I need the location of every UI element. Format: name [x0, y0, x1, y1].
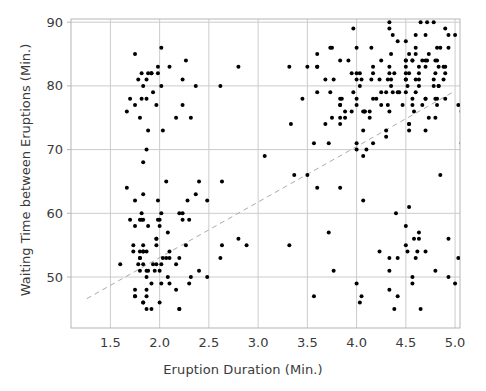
- data-point: [443, 27, 447, 31]
- x-tick-label: 4.5: [395, 335, 416, 350]
- data-point: [361, 199, 365, 203]
- data-point: [338, 97, 342, 101]
- data-point: [387, 288, 391, 292]
- data-point: [387, 20, 391, 24]
- data-point: [438, 173, 442, 177]
- data-point: [396, 39, 400, 43]
- y-tick-label: 90: [46, 15, 63, 30]
- data-point: [404, 58, 408, 62]
- data-point: [392, 71, 396, 75]
- data-point: [186, 199, 190, 203]
- data-point: [396, 90, 400, 94]
- data-point: [156, 65, 160, 69]
- data-point: [138, 256, 142, 260]
- data-point: [435, 103, 439, 107]
- data-point: [391, 33, 395, 37]
- data-point: [156, 199, 160, 203]
- data-point: [159, 262, 163, 266]
- data-point: [351, 27, 355, 31]
- data-point: [287, 243, 291, 247]
- data-point: [456, 256, 460, 260]
- data-point: [420, 103, 424, 107]
- data-point: [425, 58, 429, 62]
- data-point: [387, 65, 391, 69]
- data-point: [149, 281, 153, 285]
- data-point: [305, 65, 309, 69]
- data-point: [187, 281, 191, 285]
- data-point: [417, 84, 421, 88]
- data-point: [414, 46, 418, 50]
- data-point: [424, 97, 428, 101]
- data-point: [161, 128, 165, 132]
- data-point: [392, 307, 396, 311]
- data-point: [154, 243, 158, 247]
- data-point: [133, 224, 137, 228]
- data-point: [197, 269, 201, 273]
- data-point: [404, 39, 408, 43]
- data-point: [358, 84, 362, 88]
- data-point: [138, 269, 142, 273]
- data-point: [446, 237, 450, 241]
- data-point: [136, 262, 140, 266]
- data-point: [361, 154, 365, 158]
- data-point: [338, 116, 342, 120]
- data-point: [346, 58, 350, 62]
- data-point: [358, 301, 362, 305]
- data-point: [138, 116, 142, 120]
- data-point: [327, 141, 331, 145]
- data-point: [343, 109, 347, 113]
- data-point: [338, 186, 342, 190]
- data-point: [330, 116, 334, 120]
- data-point: [158, 301, 162, 305]
- data-point: [220, 179, 224, 183]
- data-point: [456, 103, 460, 107]
- data-point: [128, 97, 132, 101]
- data-point: [164, 256, 168, 260]
- y-tick-label: 70: [46, 142, 63, 157]
- data-point: [167, 281, 171, 285]
- data-point: [396, 256, 400, 260]
- data-point: [419, 20, 423, 24]
- data-point: [184, 58, 188, 62]
- data-point: [350, 109, 354, 113]
- data-point: [323, 122, 327, 126]
- data-point: [197, 179, 201, 183]
- data-point: [432, 78, 436, 82]
- data-point: [145, 275, 149, 279]
- data-point: [453, 33, 457, 37]
- data-point: [404, 243, 408, 247]
- data-point: [410, 97, 414, 101]
- data-point: [125, 109, 129, 113]
- data-point: [300, 97, 304, 101]
- data-point: [220, 243, 224, 247]
- y-tick-label: 60: [46, 206, 63, 221]
- data-point: [145, 294, 149, 298]
- data-point: [364, 148, 368, 152]
- data-point: [404, 90, 408, 94]
- data-point: [332, 269, 336, 273]
- data-point: [355, 71, 359, 75]
- data-point: [369, 46, 373, 50]
- data-point: [174, 262, 178, 266]
- data-point: [404, 78, 408, 82]
- x-tick-label: 2.0: [149, 335, 170, 350]
- data-point: [141, 192, 145, 196]
- data-point: [433, 97, 437, 101]
- plot-background: [71, 19, 460, 328]
- data-point: [384, 135, 388, 139]
- data-point: [432, 84, 436, 88]
- data-point: [414, 78, 418, 82]
- data-point: [355, 103, 359, 107]
- data-point: [401, 103, 405, 107]
- data-point: [181, 103, 185, 107]
- data-point: [218, 84, 222, 88]
- x-tick-label: 5.0: [445, 335, 466, 350]
- data-point: [177, 307, 181, 311]
- data-point: [343, 116, 347, 120]
- data-point: [361, 128, 365, 132]
- data-point: [327, 230, 331, 234]
- data-point: [435, 58, 439, 62]
- data-point: [427, 52, 431, 56]
- data-point: [338, 103, 342, 107]
- data-point: [417, 237, 421, 241]
